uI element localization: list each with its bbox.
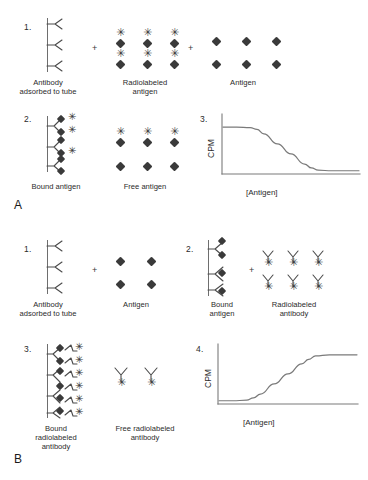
caption-line-1: Bound	[20, 424, 92, 433]
radiolabel-star-icon: ✳	[314, 283, 323, 290]
chart-svg	[212, 342, 360, 414]
radiolabel-star-icon: ✳	[75, 369, 83, 376]
radiolabel-star-icon: ✳	[170, 128, 179, 135]
radiolabel-star-icon: ✳	[68, 147, 76, 154]
operator-plus-b2: +	[249, 266, 254, 275]
antigen-diamond-icon	[116, 162, 126, 172]
antigen-diamond-icon	[272, 60, 282, 70]
antigen-diamond-icon	[116, 60, 126, 70]
caption-radiolabeled-antigen-a1: Radiolabeled antigen	[110, 78, 180, 96]
caption-bound-antigen-b2: Bound antigen	[196, 300, 248, 318]
y-axis-label-b4: CPM	[203, 369, 213, 388]
radiolabel-star-icon: ✳	[147, 379, 156, 386]
caption-line-1: Bound antigen	[16, 182, 96, 191]
panel-letter-a: A	[14, 198, 22, 212]
antibody-y-icon	[47, 240, 69, 294]
antigen-diamond-icon	[212, 60, 222, 70]
antigen-diamond-icon	[147, 257, 157, 267]
radiolabel-star-icon: ✳	[170, 29, 179, 36]
antigen-diamond-icon	[116, 257, 126, 267]
step-number-b4: 4.	[196, 344, 204, 354]
step-number-a2: 2.	[24, 114, 32, 124]
radiolabel-star-icon: ✳	[143, 29, 152, 36]
x-axis-label-a3: [Antigen]	[246, 188, 278, 197]
step-number-b1: 1.	[24, 244, 32, 254]
antigen-diamond-icon	[170, 138, 180, 148]
radiolabel-star-icon: ✳	[75, 382, 83, 389]
radiolabel-star-icon: ✳	[75, 408, 83, 415]
radiolabel-star-icon: ✳	[75, 343, 83, 350]
panel-letter-b: B	[14, 452, 22, 466]
antigen-diamond-icon	[242, 60, 252, 70]
caption-line-1: Antibody	[8, 78, 88, 87]
caption-line-1: Radiolabeled	[258, 300, 330, 309]
caption-bound-antigen-a2: Bound antigen	[16, 182, 96, 191]
operator-plus-b1: +	[92, 266, 97, 275]
operator-plus-a1-2: +	[188, 44, 193, 53]
y-axis-label-a3: CPM	[206, 139, 216, 158]
step-number-a3: 3.	[200, 114, 208, 124]
radiolabel-star-icon: ✳	[143, 50, 152, 57]
antigen-diamond-icon	[212, 37, 222, 47]
caption-line-2: antibody	[258, 309, 330, 318]
antigen-diamond-icon	[143, 138, 153, 148]
radiolabel-star-icon: ✳	[264, 259, 273, 266]
radiolabel-star-icon: ✳	[116, 128, 125, 135]
step-number-b3: 3.	[24, 344, 32, 354]
data-curve	[223, 127, 359, 171]
caption-line-2: radiolabeled	[20, 433, 92, 442]
radiolabel-star-icon: ✳	[75, 395, 83, 402]
caption-line-2: adsorbed to tube	[8, 309, 88, 318]
antibody-y-icon	[47, 18, 69, 72]
antigen-diamond-icon	[170, 162, 180, 172]
step-number-b2: 2.	[186, 244, 194, 254]
caption-line-2: antigen	[196, 309, 248, 318]
radiolabel-star-icon: ✳	[116, 50, 125, 57]
antigen-diamond-icon	[143, 162, 153, 172]
caption-line-1: Antibody	[8, 300, 88, 309]
caption-line-1: Radiolabeled	[110, 78, 180, 87]
radiolabel-star-icon: ✳	[143, 128, 152, 135]
caption-antigen-b1: Antigen	[106, 300, 166, 309]
caption-line-3: antibody	[20, 442, 92, 451]
caption-line-2: antibody	[104, 433, 186, 442]
caption-line-1: Bound	[196, 300, 248, 309]
caption-bound-radiolabeled-antibody-b3: Bound radiolabeled antibody	[20, 424, 92, 452]
caption-line-2: adsorbed to tube	[8, 87, 88, 96]
antigen-diamond-icon	[242, 37, 252, 47]
caption-line-1: Antigen	[106, 300, 166, 309]
ria-figure: 1. Antibody adsorbed to tube + ✳ ✳ ✳ ✳	[0, 0, 368, 480]
chart-competitive-ria	[216, 112, 362, 184]
caption-radiolabeled-antibody-b2: Radiolabeled antibody	[258, 300, 330, 318]
chart-irma	[212, 342, 360, 414]
antigen-diamond-icon	[116, 138, 126, 148]
caption-free-radiolabeled-antibody-b3: Free radiolabeled antibody	[104, 424, 186, 442]
radiolabel-star-icon: ✳	[68, 113, 76, 120]
radiolabel-star-icon: ✳	[264, 283, 273, 290]
caption-line-1: Free antigen	[110, 182, 180, 191]
antigen-diamond-icon	[143, 60, 153, 70]
radiolabel-star-icon: ✳	[116, 29, 125, 36]
caption-antibody-adsorbed-b1: Antibody adsorbed to tube	[8, 300, 88, 318]
operator-plus-a1-1: +	[92, 44, 97, 53]
caption-line-1: Antigen	[208, 78, 278, 87]
antigen-diamond-icon	[272, 37, 282, 47]
radiolabel-star-icon: ✳	[117, 379, 126, 386]
chart-svg	[216, 112, 362, 184]
antigen-diamond-icon	[116, 280, 126, 290]
data-curve	[219, 355, 357, 401]
radiolabel-star-icon: ✳	[75, 356, 83, 363]
radiolabel-star-icon: ✳	[68, 126, 76, 133]
antigen-diamond-icon	[147, 280, 157, 290]
antigen-diamond-icon	[170, 60, 180, 70]
radiolabel-star-icon: ✳	[289, 259, 298, 266]
caption-line-2: antigen	[110, 87, 180, 96]
caption-free-antigen-a2: Free antigen	[110, 182, 180, 191]
step-number-a1: 1.	[24, 22, 32, 32]
caption-line-1: Free radiolabeled	[104, 424, 186, 433]
radiolabel-star-icon: ✳	[314, 259, 323, 266]
caption-antibody-adsorbed-a1: Antibody adsorbed to tube	[8, 78, 88, 96]
caption-antigen-a1: Antigen	[208, 78, 278, 87]
radiolabel-star-icon: ✳	[289, 283, 298, 290]
radiolabel-star-icon: ✳	[170, 50, 179, 57]
